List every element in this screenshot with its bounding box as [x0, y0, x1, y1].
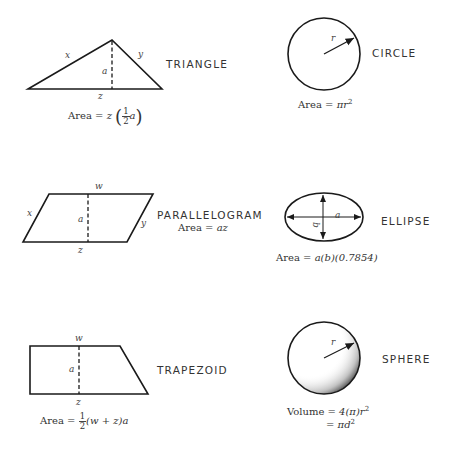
trapezoid-formula: Area = 12(w + z)a: [40, 412, 128, 431]
parallelogram-title: PARALLELOGRAM: [157, 209, 263, 221]
parallelogram-label-z: z: [78, 245, 83, 255]
triangle-shape: [28, 40, 162, 89]
circle-title: CIRCLE: [372, 47, 416, 59]
formula-prefix: Area =: [40, 415, 79, 426]
trapezoid-label-w: w: [75, 333, 83, 343]
triangle-label-y: y: [138, 49, 143, 59]
circle-label-r: r: [331, 33, 335, 43]
parallelogram-label-x: x: [27, 208, 32, 218]
ellipse-shape: [285, 193, 363, 241]
left-paren: (: [115, 106, 122, 127]
formula-expr: a(b)(0.7854): [315, 252, 378, 263]
fraction: 12: [79, 412, 86, 431]
fraction-denominator: 2: [122, 117, 129, 126]
formula-expr: πr: [337, 99, 348, 110]
parallelogram-label-a: a: [78, 214, 83, 224]
formula-expr: πd: [338, 419, 351, 430]
trapezoid-label-z: z: [76, 397, 81, 407]
ellipse-label-b: b: [311, 222, 321, 228]
formula-expr: (w + z)a: [86, 415, 128, 426]
fraction-denominator: 2: [79, 422, 86, 431]
trapezoid-shape: [30, 346, 148, 394]
formula-exponent: 2: [348, 98, 352, 106]
formula-prefix: Area =: [276, 252, 315, 263]
sphere-shape: [288, 322, 360, 394]
fraction: 12: [122, 107, 129, 126]
formula-prefix: Area =: [68, 110, 107, 121]
sphere-formula-line2: = πd2: [326, 418, 355, 430]
parallelogram-label-w: w: [95, 181, 103, 191]
formula-expr: az: [217, 222, 228, 233]
triangle-formula: Area = z (12a): [68, 107, 143, 126]
formula-var: z: [107, 110, 112, 121]
formula-prefix: Volume =: [287, 406, 339, 417]
formula-exponent: 2: [365, 405, 369, 413]
triangle-title: TRIANGLE: [166, 58, 228, 70]
sphere-label-r: r: [331, 337, 335, 347]
ellipse-formula: Area = a(b)(0.7854): [276, 252, 378, 263]
trapezoid-label-a: a: [69, 364, 74, 374]
parallelogram-shape: [23, 194, 153, 242]
ellipse-label-a: a: [335, 210, 340, 220]
formula-prefix: =: [326, 419, 338, 430]
formula-expr: 4(π)r: [339, 406, 365, 417]
circle-shape: [288, 18, 360, 90]
ellipse-title: ELLIPSE: [381, 215, 430, 227]
parallelogram-label-y: y: [141, 218, 146, 228]
sphere-title: SPHERE: [382, 353, 431, 365]
triangle-label-x: x: [65, 50, 70, 60]
circle-formula: Area = πr2: [298, 98, 352, 110]
trapezoid-title: TRAPEZOID: [157, 364, 228, 376]
formula-prefix: Area =: [178, 222, 217, 233]
formula-prefix: Area =: [298, 99, 337, 110]
parallelogram-formula: Area = az: [178, 222, 228, 233]
sphere-formula-line1: Volume = 4(π)r2: [287, 405, 369, 417]
triangle-label-a: a: [102, 66, 107, 76]
formula-exponent: 2: [351, 418, 355, 426]
right-paren: ): [136, 106, 143, 127]
triangle-label-z: z: [98, 91, 103, 101]
